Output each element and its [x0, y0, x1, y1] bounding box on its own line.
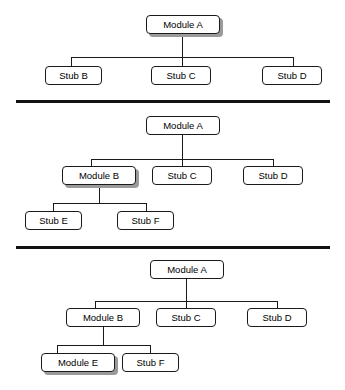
stage-1-node-module-a[interactable]: Module A	[146, 15, 220, 34]
stage-3-connector-trunk-b	[103, 327, 104, 345]
stage-3-node-stub-c[interactable]: Stub C	[156, 308, 216, 327]
stage-1-node-stub-d[interactable]: Stub D	[262, 66, 322, 85]
stage-2-node-module-a[interactable]: Module A	[146, 116, 220, 135]
stage-2-node-module-b[interactable]: Module B	[62, 166, 136, 185]
stage-3-node-module-a[interactable]: Module A	[150, 260, 224, 279]
stage-2-node-stub-d[interactable]: Stub D	[243, 166, 303, 185]
stage-2-connector-bus-b	[53, 203, 146, 204]
stage-3-node-stub-f[interactable]: Stub F	[122, 353, 179, 372]
stage-1-node-stub-c[interactable]: Stub C	[151, 66, 211, 85]
stage-divider-1	[16, 100, 330, 103]
stage-3-connector-bus-b	[57, 345, 150, 346]
stage-1-node-stub-b[interactable]: Stub B	[45, 66, 102, 85]
stage-3-node-module-b[interactable]: Module B	[66, 308, 140, 327]
stage-2-connector-trunk-b	[99, 185, 100, 203]
stage-3-node-module-e[interactable]: Module E	[41, 353, 115, 372]
stage-2: Module A Module B Stub C Stub D Stub E S…	[0, 110, 345, 240]
stage-3-connector-trunk	[186, 279, 187, 301]
top-down-integration-diagram: { "diagram": { "title": "Top-down integr…	[0, 0, 345, 390]
stage-3-node-stub-d[interactable]: Stub D	[247, 308, 307, 327]
stage-1: Module A Stub B Stub C Stub D	[0, 0, 345, 100]
stage-2-node-stub-e[interactable]: Stub E	[25, 211, 82, 230]
stage-2-node-stub-f[interactable]: Stub F	[117, 211, 174, 230]
stage-2-connector-trunk	[182, 135, 183, 159]
stage-3: Module A Module B Stub C Stub D Module E…	[0, 256, 345, 386]
stage-1-connector-trunk	[182, 34, 183, 57]
stage-divider-2	[16, 246, 330, 249]
stage-2-node-stub-c[interactable]: Stub C	[152, 166, 212, 185]
